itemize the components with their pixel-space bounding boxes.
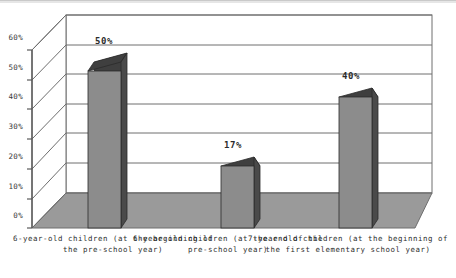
bar-value-label-1: 17% <box>224 140 242 150</box>
bar-series-item-0[interactable] <box>88 53 127 228</box>
bar-series-item-2[interactable] <box>339 88 378 228</box>
y-tick-label-20: 20% <box>0 152 23 161</box>
bar-chart: 60% 50% 40% 30% 20% 10% 0% 50% 17% 40% 6… <box>0 0 456 278</box>
bar-value-label-0: 50% <box>95 36 113 46</box>
y-tick-label-50: 50% <box>0 63 23 72</box>
y-tick-label-10: 10% <box>0 182 23 191</box>
bar-series-item-1[interactable] <box>221 157 260 228</box>
y-axis-ticks <box>27 50 32 228</box>
y-tick-label-60: 60% <box>0 33 23 42</box>
y-tick-label-40: 40% <box>0 92 23 101</box>
y-tick-label-0: 0% <box>0 211 23 220</box>
bar-value-label-2: 40% <box>342 71 360 81</box>
x-axis-category-labels: 6-year-old children (at the beginning of… <box>0 233 456 278</box>
x-category-label-2: 7-year-old children (at the beginning of… <box>242 234 454 256</box>
y-tick-label-30: 30% <box>0 122 23 131</box>
